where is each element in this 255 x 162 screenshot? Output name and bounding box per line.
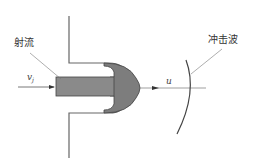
jet-leader-line (30, 53, 61, 79)
jet-velocity-subscript: j (32, 76, 34, 83)
jet-column (56, 77, 114, 96)
jet-shock-diagram (0, 0, 255, 162)
shock-leader-line (191, 49, 222, 74)
lower-wall (69, 109, 122, 158)
head-velocity-label: u (166, 77, 172, 86)
upper-wall (69, 16, 122, 67)
jet-velocity-label: vj (27, 73, 34, 83)
jet-label: 射流 (14, 38, 34, 48)
shock-wave-arc (177, 60, 190, 134)
shock-wave-label: 冲击波 (208, 35, 238, 45)
head-velocity-arrowhead (152, 86, 159, 90)
